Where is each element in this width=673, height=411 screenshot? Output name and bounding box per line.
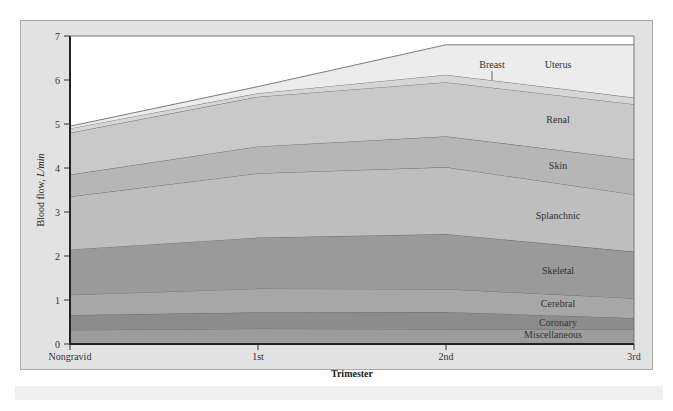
x-axis-title: Trimester <box>331 368 374 379</box>
label-uterus: Uterus <box>545 59 572 70</box>
x-tick-label: Nongravid <box>49 351 92 362</box>
y-tick-label: 4 <box>55 163 60 174</box>
label-renal: Renal <box>546 114 570 125</box>
y-tick-label: 3 <box>55 207 60 218</box>
x-tick-label: 2nd <box>439 351 454 362</box>
y-axis-title: Blood flow, L/min <box>35 154 46 227</box>
y-axis-ticks: 01234567 <box>55 31 70 350</box>
label-splanchnic: Splanchnic <box>536 210 581 221</box>
y-tick-label: 5 <box>55 119 60 130</box>
label-coronary: Coronary <box>539 317 577 328</box>
y-tick-label: 7 <box>55 31 60 42</box>
x-axis-ticks: Nongravid1st2nd3rd <box>49 344 641 362</box>
y-tick-label: 6 <box>55 75 60 86</box>
label-miscellaneous: Miscellaneous <box>524 329 582 340</box>
y-tick-label: 1 <box>55 295 60 306</box>
label-skin: Skin <box>549 160 567 171</box>
x-tick-label: 3rd <box>627 351 640 362</box>
label-cerebral: Cerebral <box>541 298 576 309</box>
y-tick-label: 0 <box>55 339 60 350</box>
x-tick-label: 1st <box>252 351 264 362</box>
y-tick-label: 2 <box>55 251 60 262</box>
stacked-area-chart: MiscellaneousCoronaryCerebralSkeletalSpl… <box>0 0 673 411</box>
label-skeletal: Skeletal <box>542 265 574 276</box>
label-breast: Breast <box>479 59 505 70</box>
